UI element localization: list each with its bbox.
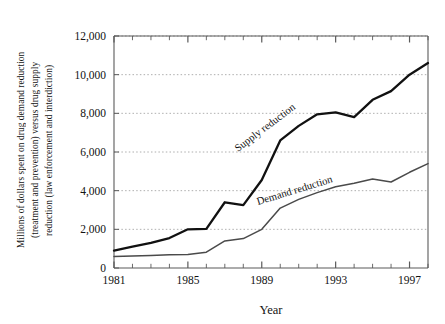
line-chart-plot: 02,0004,0006,0008,00010,00012,000 198119… bbox=[0, 0, 445, 324]
y-tick-label: 6,000 bbox=[80, 146, 106, 159]
chart-figure: Millions of dollars spent on drug demand… bbox=[0, 0, 445, 324]
x-axis-title: Year bbox=[259, 303, 283, 317]
x-axis-tick-labels: 19811985198919931997 bbox=[103, 274, 422, 286]
y-tick-label: 12,000 bbox=[74, 30, 106, 43]
x-tick-label: 1997 bbox=[398, 274, 421, 286]
series-line bbox=[114, 164, 428, 257]
y-tick-label: 2,000 bbox=[80, 223, 106, 236]
x-tick-label: 1993 bbox=[324, 274, 347, 286]
y-tick-label: 4,000 bbox=[80, 185, 106, 198]
y-tick-label: 10,000 bbox=[74, 69, 106, 82]
series-line bbox=[114, 63, 428, 251]
x-tick-label: 1989 bbox=[250, 274, 273, 286]
y-tick-label: 0 bbox=[100, 262, 106, 274]
y-axis-tick-labels: 02,0004,0006,0008,00010,00012,000 bbox=[74, 30, 119, 274]
data-series-lines bbox=[114, 63, 428, 256]
y-tick-label: 8,000 bbox=[80, 107, 106, 120]
x-tick-label: 1985 bbox=[176, 274, 199, 286]
x-tick-label: 1981 bbox=[103, 274, 126, 286]
series-label: Supply reduction bbox=[233, 101, 298, 154]
